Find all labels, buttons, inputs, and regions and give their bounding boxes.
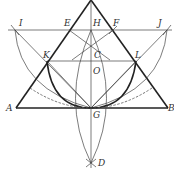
line-E-cross: [69, 30, 110, 60]
label-L: L: [134, 50, 141, 60]
label-E: E: [63, 18, 71, 28]
line-F-cross: [72, 30, 113, 60]
label-G: G: [93, 110, 100, 120]
inscribed-curve: [47, 61, 136, 108]
construction-diagram: I E H F J K C L O A B G D: [0, 0, 174, 174]
arc-lens-left: [76, 30, 92, 163]
label-I: I: [18, 18, 23, 28]
label-A: A: [5, 103, 13, 113]
label-D: D: [97, 158, 105, 168]
label-F: F: [112, 18, 120, 28]
label-O: O: [93, 66, 101, 76]
label-H: H: [92, 18, 101, 28]
label-B: B: [167, 103, 174, 113]
label-C: C: [94, 50, 101, 60]
label-K: K: [42, 50, 51, 60]
label-J: J: [156, 18, 163, 28]
side-B-apex: [91, 0, 168, 108]
